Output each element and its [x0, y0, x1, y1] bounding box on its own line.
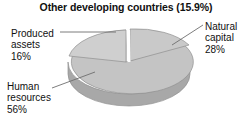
slice-value-human-resources: 56% [7, 104, 51, 115]
slice-label-human-resources-line2: resources [7, 92, 51, 103]
pie-slice-produced-assets [69, 30, 126, 62]
pie-chart-figure: Other developing countries (15.9%) Produ… [0, 0, 252, 121]
slice-label-produced-assets-line1: Produced [11, 28, 54, 39]
leader-line-natural-capital [172, 25, 203, 45]
slice-label-natural-capital: Natural capital 28% [205, 21, 237, 55]
slice-label-produced-assets-line2: assets [11, 39, 54, 50]
slice-value-produced-assets: 16% [11, 51, 54, 62]
slice-label-natural-capital-line1: Natural [205, 21, 237, 32]
slice-label-human-resources: Human resources 56% [7, 81, 51, 115]
pie-explode-gap [127, 30, 131, 63]
slice-label-produced-assets: Produced assets 16% [11, 28, 54, 62]
slice-value-natural-capital: 28% [205, 44, 237, 55]
slice-label-natural-capital-line2: capital [205, 32, 237, 43]
slice-label-human-resources-line1: Human [7, 81, 51, 92]
